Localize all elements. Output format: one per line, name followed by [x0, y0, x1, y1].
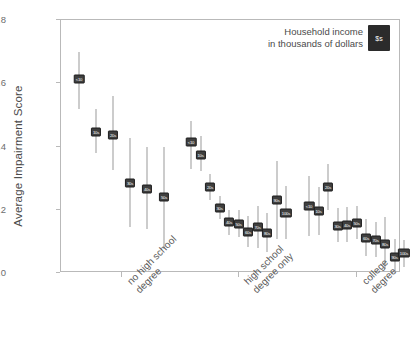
data-point-marker: 90s — [271, 195, 281, 204]
data-point-marker: 100s — [280, 208, 292, 217]
y-tick-label: .8 — [0, 14, 6, 25]
data-point-marker: 10s — [91, 127, 101, 136]
y-tick-label: .2 — [0, 203, 6, 214]
data-point-marker: 40s — [142, 184, 152, 193]
data-point-marker: 10s — [195, 150, 205, 159]
x-tick-mark — [121, 272, 122, 277]
data-point-marker: 30s — [214, 204, 224, 213]
data-point-marker: 80s — [380, 239, 390, 248]
data-point-marker: 30s — [125, 178, 135, 187]
y-tick-label: .6 — [0, 77, 6, 88]
legend-label: Household income in thousands of dollars — [268, 26, 363, 50]
legend: Household income in thousands of dollars… — [268, 25, 390, 51]
data-point-marker: 20s — [108, 130, 118, 139]
data-point-marker: 20s — [323, 182, 333, 191]
data-point-marker: 80s — [262, 228, 272, 237]
data-point-marker: 50s — [351, 218, 361, 227]
x-tick-mark — [238, 272, 239, 277]
chart-container: Average Impairment Score 0.0.2.4.6.8 <10… — [0, 0, 412, 339]
y-tick-mark — [56, 272, 60, 273]
x-tick-mark — [356, 272, 357, 277]
data-point-marker: <10 — [74, 75, 85, 84]
y-axis-title: Average Impairment Score — [12, 46, 24, 266]
data-point-marker: 20s — [205, 183, 215, 192]
data-point-marker: 10s — [313, 207, 323, 216]
y-tick-label: 0.0 — [0, 267, 6, 278]
data-point-marker: <10 — [186, 138, 197, 147]
legend-badge: $s — [368, 25, 390, 51]
y-tick-label: .4 — [0, 140, 6, 151]
plot-area: <1010s20s30s40s50s<1010s20s30s40s50s60s7… — [60, 19, 400, 272]
data-point-marker: 50s — [159, 193, 169, 202]
